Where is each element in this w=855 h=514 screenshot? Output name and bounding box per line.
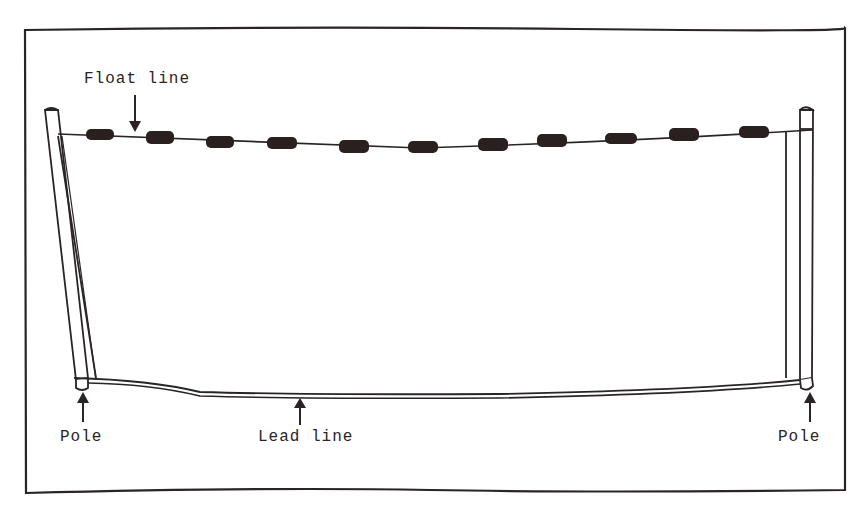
float-9: [605, 133, 637, 144]
float-7: [478, 138, 508, 151]
float-1: [86, 129, 114, 140]
pole-left-arrow: [77, 392, 89, 422]
left-pole: [45, 108, 96, 390]
float-8: [537, 134, 567, 147]
float-11: [739, 126, 769, 138]
float-5: [339, 140, 369, 153]
frame-border: [25, 28, 845, 493]
arrows: [77, 95, 816, 425]
float-3: [206, 136, 234, 148]
lead-line-arrow: [294, 398, 306, 425]
lead-line-label: Lead line: [258, 428, 353, 446]
pole-right-arrow: [804, 392, 816, 422]
pole-right-label: Pole: [778, 428, 820, 446]
float-4: [267, 137, 297, 149]
float-10: [669, 128, 699, 141]
float-2: [146, 131, 174, 144]
float-6: [408, 141, 438, 153]
float-line-label: Float line: [84, 70, 190, 88]
pole-left-label: Pole: [60, 428, 102, 446]
right-pole: [786, 107, 814, 389]
float-line-arrow: [129, 95, 141, 132]
lead-line-rope: [74, 378, 800, 398]
